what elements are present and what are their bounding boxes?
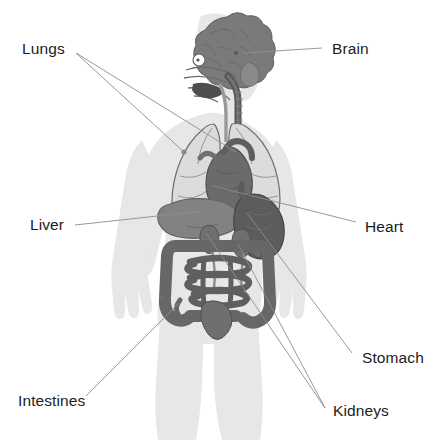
eye	[193, 54, 205, 66]
label-intestines: Intestines	[18, 393, 85, 409]
label-stomach: Stomach	[362, 350, 424, 366]
label-lungs: Lungs	[22, 41, 65, 57]
leader-line-lungs-left	[76, 53, 184, 152]
label-brain: Brain	[332, 41, 369, 57]
label-liver: Liver	[30, 217, 64, 233]
label-heart: Heart	[365, 219, 403, 235]
organ-diagram-canvas: Lungs Brain Liver Heart Stomach Intestin…	[0, 0, 439, 440]
label-kidneys: Kidneys	[333, 403, 389, 419]
